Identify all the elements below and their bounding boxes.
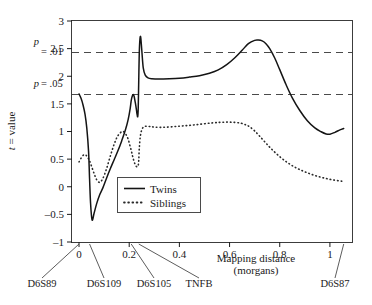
- y-tick-label: 1: [59, 125, 65, 137]
- plot-frame: [72, 21, 353, 243]
- x-tick-label: 1: [327, 248, 333, 260]
- figure-container: –1–0.500.511.522.53 00.20.40.60.81 t = v…: [0, 0, 372, 305]
- y-axis-title-rest: = value: [5, 112, 17, 148]
- threshold-lines: [72, 52, 352, 94]
- y-tick-label: 0: [59, 181, 65, 193]
- p01-label-p: p: [33, 36, 39, 47]
- y-tick-label: 0.5: [50, 153, 64, 165]
- y-tick-label: –0.5: [44, 208, 65, 220]
- marker-leader-line: [42, 244, 79, 278]
- marker-leader-line: [335, 244, 344, 278]
- marker-leader-line: [139, 244, 199, 278]
- p01-label-value: = .01: [41, 46, 63, 57]
- x-axis-title-line1: Mapping distance: [217, 252, 296, 264]
- marker-label: D6S89: [27, 278, 56, 289]
- p05-label-value: = .05: [41, 78, 63, 89]
- marker-label: D6S109: [87, 278, 121, 289]
- legend-label-siblings: Siblings: [150, 197, 186, 209]
- marker-leader-line: [90, 244, 104, 278]
- chart-svg: –1–0.500.511.522.53 00.20.40.60.81 t = v…: [0, 0, 372, 305]
- x-axis-title-line2: (morgans): [233, 264, 278, 277]
- series-siblings-line: [79, 122, 344, 182]
- x-tick-label: 0.2: [122, 248, 136, 260]
- p05-label-p: p: [33, 78, 39, 89]
- marker-label: TNFB: [186, 278, 213, 289]
- y-axis-title: t = value: [5, 112, 17, 151]
- y-tick-label: –1: [52, 236, 64, 248]
- marker-leader-line: [131, 244, 154, 278]
- marker-label: D6S87: [320, 278, 349, 289]
- p05-annotation: p = .05: [33, 78, 63, 89]
- y-tick-label: 3: [59, 15, 65, 27]
- marker-label: D6S105: [137, 278, 171, 289]
- legend: Twins Siblings: [118, 178, 201, 213]
- x-tick-label: 0.4: [173, 248, 187, 260]
- y-tick-label: 1.5: [50, 98, 64, 110]
- legend-label-twins: Twins: [150, 183, 177, 195]
- p01-annotation: p = .01: [33, 36, 63, 58]
- x-tick-label: 0: [76, 248, 82, 260]
